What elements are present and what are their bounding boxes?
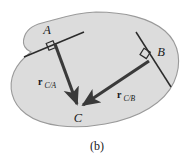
figure-caption: (b) <box>90 139 104 153</box>
vector-symbol-r-ca: r <box>38 76 43 87</box>
vector-subscript-ca: C/A <box>45 81 57 90</box>
vector-symbol-r-cb: r <box>117 89 122 100</box>
point-label-a: A <box>42 23 51 37</box>
point-label-c: C <box>74 111 83 125</box>
point-label-b: B <box>157 45 165 59</box>
rigid-body-relative-position-diagram: A B C r C/A r C/B (b) <box>0 0 194 156</box>
rigid-body-shape <box>11 12 179 127</box>
figure-container: A B C r C/A r C/B (b) <box>0 0 194 156</box>
vector-subscript-cb: C/B <box>124 94 136 103</box>
